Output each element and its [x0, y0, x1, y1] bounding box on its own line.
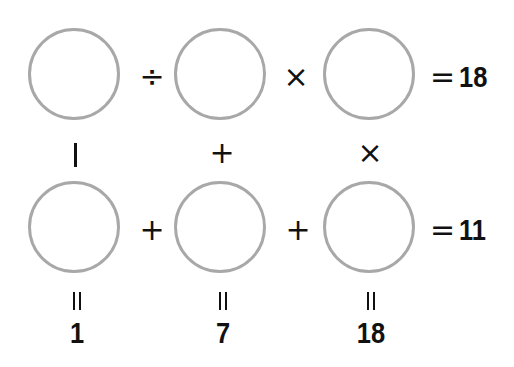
column1-minus-operator: [74, 143, 77, 167]
column1-result: 1: [52, 318, 103, 348]
cell-r2-c1[interactable]: [28, 181, 120, 273]
operator-plus-2: +: [283, 215, 313, 245]
column1-equals: [70, 292, 84, 310]
column3-equals: [364, 292, 378, 310]
column2-result: 7: [198, 318, 249, 348]
row1-equals: =: [430, 62, 455, 92]
column2-plus-operator: +: [207, 138, 237, 168]
cell-r1-c3[interactable]: [323, 28, 415, 120]
operator-divide: ÷: [137, 62, 167, 92]
cell-r1-c1[interactable]: [28, 28, 120, 120]
row2-result: 11: [459, 215, 486, 245]
row1-result: 18: [459, 62, 487, 92]
operator-multiply: ×: [281, 62, 311, 92]
cell-r2-c3[interactable]: [323, 181, 415, 273]
cell-r2-c2[interactable]: [174, 181, 266, 273]
column3-multiply-operator: ×: [355, 138, 385, 168]
column3-result: 18: [346, 318, 397, 348]
row2-equals: =: [430, 215, 455, 245]
column2-equals: [216, 292, 230, 310]
operator-plus-1: +: [137, 215, 167, 245]
cell-r1-c2[interactable]: [174, 28, 266, 120]
